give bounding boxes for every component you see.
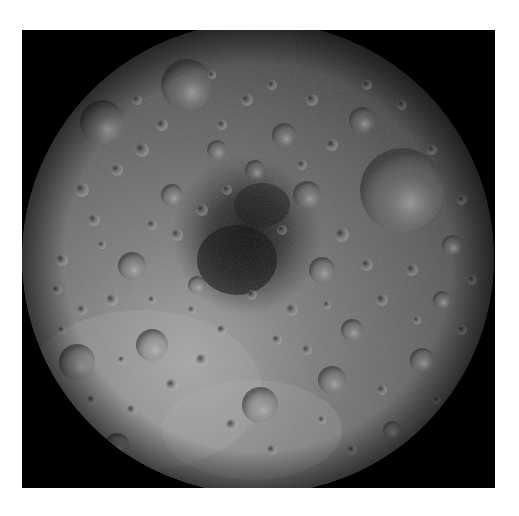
moon-image — [22, 30, 495, 488]
image-frame — [22, 30, 495, 488]
moon-disc — [22, 30, 495, 488]
